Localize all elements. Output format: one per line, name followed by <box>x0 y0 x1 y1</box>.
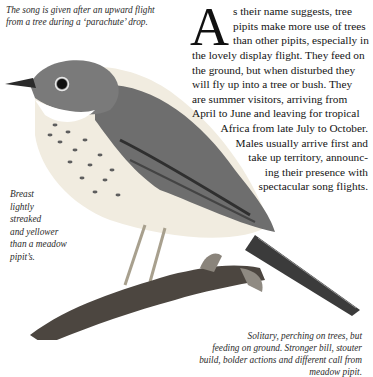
caption-line: lightly <box>10 201 90 214</box>
caption-line: feeding on ground. Stronger bill, stoute… <box>140 342 362 354</box>
beak <box>5 78 36 88</box>
caption-breast: Breast lightly streaked and yellower tha… <box>10 188 90 264</box>
text-line: Africa from late July to October. <box>192 121 368 136</box>
caption-line: streaked <box>10 213 90 226</box>
caption-line: The song is given after an upward flight <box>6 4 196 16</box>
text-line: spectacular song flights. <box>192 179 368 194</box>
caption-line: meadow pipit. <box>140 366 362 377</box>
caption-behaviour: Solitary, perching on trees, but feeding… <box>140 330 362 377</box>
text-line: April to June and leaving for tropical <box>192 106 368 121</box>
caption-line: from a tree during a ‘parachute’ drop. <box>6 16 196 28</box>
text-line: ing their presence with <box>192 165 368 180</box>
caption-line: build, bolder actions and different call… <box>140 354 362 366</box>
caption-song-flight: The song is given after an upward flight… <box>6 4 196 28</box>
eye <box>57 79 67 89</box>
legs <box>125 225 165 285</box>
caption-line: pipit’s. <box>10 251 90 264</box>
caption-line: than a meadow <box>10 238 90 251</box>
text-line: will fly up into a tree or bush. They <box>192 77 368 92</box>
drop-cap: A <box>190 6 229 48</box>
text-line: Males usually arrive first and <box>192 136 368 151</box>
caption-line: Breast <box>10 188 90 201</box>
caption-line: and yellower <box>10 226 90 239</box>
species-description: A s their name suggests, tree pipits mak… <box>192 4 368 194</box>
text-line: are summer visitors, arriving from <box>192 92 368 107</box>
text-line: the lovely display flight. They feed on <box>192 48 368 63</box>
caption-line: Solitary, perching on trees, but <box>140 330 362 342</box>
text-line: take up territory, announc- <box>192 150 368 165</box>
branch <box>30 266 265 340</box>
text-line: the ground, but when disturbed they <box>192 63 368 78</box>
